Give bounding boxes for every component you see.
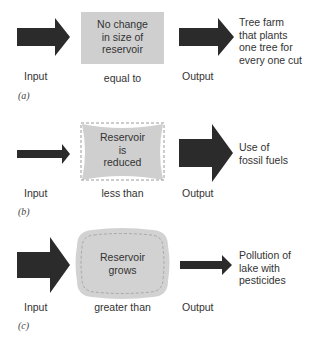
example-line: every one cut (239, 54, 302, 67)
example-line: pesticides (239, 274, 291, 287)
example-line: Pollution of (239, 249, 291, 262)
reservoir-line: in size of (81, 31, 164, 44)
input-label-c: Input (24, 301, 47, 314)
panel-caption-c: (c) (18, 320, 29, 331)
relation-label-c: greater than (81, 301, 164, 314)
example-line: lake with (239, 262, 291, 275)
example-line: that plants (239, 29, 302, 42)
output-arrow-large-a (179, 18, 234, 56)
input-arrow-small-b (17, 144, 70, 164)
reservoir-text-a: No change in size of reservoir (81, 18, 164, 56)
panel-caption-b: (b) (18, 206, 30, 217)
example-line: one tree for (239, 41, 302, 54)
relation-label-a: equal to (81, 72, 164, 85)
reservoir-text-b: Reservoir is reduced (81, 131, 164, 169)
example-line: fossil fuels (239, 154, 288, 167)
reservoir-line: is (81, 144, 164, 157)
reservoir-line: Reservoir (81, 131, 164, 144)
reservoir-line: grows (81, 264, 164, 277)
output-label-a: Output (182, 70, 214, 83)
reservoir-text-c: Reservoir grows (81, 251, 164, 276)
example-line: Use of (239, 141, 288, 154)
panel-caption-a: (a) (18, 90, 30, 101)
input-arrow-large-a (17, 18, 70, 56)
reservoir-line: reservoir (81, 43, 164, 56)
output-label-c: Output (182, 301, 214, 314)
output-arrow-small-c (180, 255, 232, 275)
input-arrow-large-c (17, 237, 70, 293)
output-example-a: Tree farm that plants one tree for every… (239, 16, 302, 66)
output-label-b: Output (182, 187, 214, 200)
output-arrow-large-b (179, 124, 233, 182)
reservoir-line: Reservoir (81, 251, 164, 264)
output-example-b: Use of fossil fuels (239, 141, 288, 166)
input-label-a: Input (24, 70, 47, 83)
input-label-b: Input (24, 187, 47, 200)
example-line: Tree farm (239, 16, 302, 29)
relation-label-b: less than (81, 187, 164, 200)
reservoir-line: No change (81, 18, 164, 31)
output-example-c: Pollution of lake with pesticides (239, 249, 291, 287)
reservoir-line: reduced (81, 156, 164, 169)
